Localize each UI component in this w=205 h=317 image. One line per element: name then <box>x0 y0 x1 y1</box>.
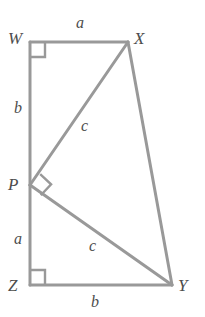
side-label-a-left: a <box>14 231 22 247</box>
vertex-label-P: P <box>8 176 18 193</box>
vertex-label-X: X <box>134 30 144 47</box>
side-label-b-left: b <box>14 100 22 116</box>
side-label-b-bottom: b <box>91 294 99 310</box>
side-label-a-top: a <box>76 15 84 31</box>
side-label-c-lower: c <box>89 238 96 254</box>
diagram-canvas <box>0 0 205 317</box>
segment-PY <box>30 185 172 285</box>
right-angle-W-icon <box>30 42 45 57</box>
geometry-figure: W X P Z Y a b a b c c <box>0 0 205 317</box>
right-angle-Z-icon <box>30 270 45 285</box>
vertex-label-Y: Y <box>178 277 187 294</box>
vertex-label-Z: Z <box>8 277 17 294</box>
segment-PX <box>30 42 128 185</box>
vertex-label-W: W <box>8 30 22 47</box>
side-label-c-upper: c <box>81 118 88 134</box>
segment-XY <box>128 42 172 285</box>
